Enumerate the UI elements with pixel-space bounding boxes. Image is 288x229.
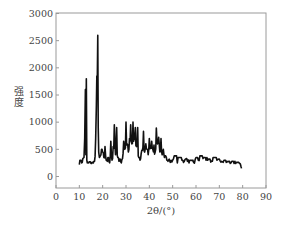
y-axis-label: 强度 xyxy=(14,86,24,108)
x-tick-label: 80 xyxy=(237,191,249,202)
y-tick-label: 0 xyxy=(47,171,53,182)
x-tick-label: 60 xyxy=(190,191,202,202)
y-tick-label: 2500 xyxy=(29,35,53,46)
x-tick-label: 30 xyxy=(120,191,132,202)
x-axis-label: 2θ/(°) xyxy=(147,205,176,216)
x-tick-label: 10 xyxy=(73,191,85,202)
y-tick-label: 3000 xyxy=(29,8,53,19)
x-tick-label: 90 xyxy=(260,191,272,202)
x-tick-label: 20 xyxy=(97,191,109,202)
y-tick-label: 2000 xyxy=(29,62,53,73)
x-tick-label: 40 xyxy=(143,191,155,202)
y-tick-label: 1000 xyxy=(29,116,53,127)
x-tick-label: 70 xyxy=(213,191,225,202)
y-axis-ticks: 050010001500200025003000 xyxy=(29,8,59,182)
xrd-series-line xyxy=(79,35,241,168)
xrd-chart: 050010001500200025003000 010203040506070… xyxy=(0,0,288,229)
x-tick-label: 0 xyxy=(53,191,59,202)
y-tick-label: 1500 xyxy=(29,89,53,100)
x-tick-label: 50 xyxy=(167,191,179,202)
y-tick-label: 500 xyxy=(35,144,53,155)
